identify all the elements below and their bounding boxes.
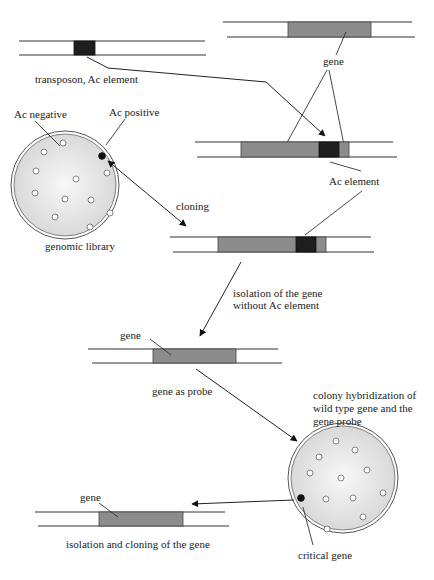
colony-negative (32, 190, 38, 196)
petri-dish-agar (14, 134, 116, 236)
colony-negative (87, 224, 93, 230)
colony-negative (338, 475, 344, 481)
isolation-label-line2: without Ac element (233, 299, 319, 311)
gene-final-label: gene (80, 491, 101, 503)
gene-block (99, 512, 183, 526)
probe-arrow (196, 369, 297, 441)
colony-negative (352, 447, 358, 453)
gene-leader-line (284, 70, 327, 148)
ac-leader-line (330, 162, 361, 171)
genomic-library-dish (11, 131, 119, 239)
colony-negative (73, 176, 79, 182)
ac-positive-label: Ac positive (109, 106, 160, 118)
critical-gene-label: critical gene (298, 549, 352, 561)
cloned-mutant-dna (170, 237, 374, 252)
ac-element-block (74, 41, 95, 55)
colony-negative (364, 467, 370, 473)
colony-positive (99, 153, 106, 160)
ac-element-label: Ac element (329, 175, 379, 187)
colony-negative (316, 454, 322, 460)
wildtype-gene-dna (223, 22, 415, 37)
hybridization-label-line1: colony hybridization of (313, 389, 417, 401)
gene-probe-dna (88, 349, 282, 363)
final-step-label: isolation and cloning of the gene (66, 538, 210, 550)
colony-negative (52, 214, 58, 220)
transposon-label: transposon, Ac element (35, 73, 138, 85)
colony-negative (307, 470, 313, 476)
final-gene-dna (35, 512, 229, 526)
colony-negative (360, 514, 366, 520)
colony-negative (60, 140, 66, 146)
mutant-gene-dna (195, 142, 397, 157)
cloning-label: cloning (176, 200, 209, 212)
colony-negative (324, 526, 330, 532)
ac-leader-line (305, 191, 362, 235)
isolation-label-line1: isolation of the gene (233, 287, 323, 299)
colony-negative (350, 495, 356, 501)
colony-negative (62, 196, 68, 202)
gene-as-probe-label: gene as probe (152, 385, 213, 397)
hybridization-label-line2: wild type gene and the (313, 402, 413, 414)
colony-negative (88, 197, 94, 203)
colony-negative (333, 438, 339, 444)
insertion-arrow (87, 57, 325, 136)
final-isolation-arrow (192, 500, 294, 504)
colony-negative (104, 170, 110, 176)
colony-negative (380, 490, 386, 496)
colony-negative (41, 149, 47, 155)
ac-positive-leader (106, 119, 125, 145)
colony-negative (33, 168, 39, 174)
genomic-library-label: genomic library (45, 240, 115, 252)
colony-negative (107, 210, 113, 216)
ac-element-block (296, 237, 316, 252)
ac-element-block (319, 142, 339, 157)
gene-leader-line (329, 70, 344, 145)
cloning-arrow (108, 161, 186, 226)
hybridization-label-line3: gene probe (313, 415, 362, 427)
colony-positive (298, 495, 305, 502)
transposon-dna (19, 41, 206, 55)
ac-negative-label: Ac negative (14, 108, 67, 120)
transposon-tagging-diagram: transposon, Ac element gene Ac element (0, 0, 434, 580)
gene-label-top: gene (323, 55, 344, 67)
gene-probe-label: gene (120, 329, 141, 341)
gene-block (288, 22, 371, 37)
hybridization-dish (288, 423, 398, 533)
colony-negative (323, 496, 329, 502)
